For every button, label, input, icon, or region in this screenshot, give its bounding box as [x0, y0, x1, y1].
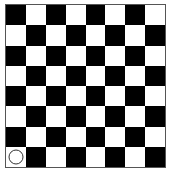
- board-square[interactable]: [105, 25, 125, 45]
- board-square[interactable]: [6, 127, 26, 147]
- board-square[interactable]: [46, 86, 66, 106]
- board-square[interactable]: [46, 147, 66, 167]
- board-square[interactable]: [145, 147, 165, 167]
- board-square[interactable]: [26, 86, 46, 106]
- board-square[interactable]: [66, 66, 86, 86]
- board-square[interactable]: [26, 5, 46, 25]
- board-square[interactable]: [26, 106, 46, 126]
- board-square[interactable]: [26, 25, 46, 45]
- board-square[interactable]: [145, 46, 165, 66]
- board-square[interactable]: [145, 86, 165, 106]
- board-square[interactable]: [86, 106, 106, 126]
- circle-piece-icon[interactable]: [8, 149, 23, 164]
- board-square[interactable]: [86, 66, 106, 86]
- board-square[interactable]: [6, 147, 26, 167]
- board-square[interactable]: [6, 46, 26, 66]
- board-square[interactable]: [86, 127, 106, 147]
- board-square[interactable]: [6, 86, 26, 106]
- board-square[interactable]: [125, 86, 145, 106]
- board-square[interactable]: [145, 106, 165, 126]
- board-square[interactable]: [66, 106, 86, 126]
- board-square[interactable]: [105, 66, 125, 86]
- board-square[interactable]: [105, 5, 125, 25]
- board-square[interactable]: [66, 46, 86, 66]
- board-square[interactable]: [26, 66, 46, 86]
- board-square[interactable]: [145, 66, 165, 86]
- board-square[interactable]: [46, 25, 66, 45]
- board-square[interactable]: [125, 25, 145, 45]
- board-square[interactable]: [46, 106, 66, 126]
- board-square[interactable]: [105, 86, 125, 106]
- board-square[interactable]: [105, 46, 125, 66]
- board-square[interactable]: [125, 127, 145, 147]
- board-square[interactable]: [46, 127, 66, 147]
- board-square[interactable]: [105, 106, 125, 126]
- board-square[interactable]: [6, 106, 26, 126]
- board-square[interactable]: [6, 5, 26, 25]
- board-square[interactable]: [26, 147, 46, 167]
- board-square[interactable]: [46, 5, 66, 25]
- board-square[interactable]: [125, 5, 145, 25]
- board-square[interactable]: [66, 5, 86, 25]
- board-square[interactable]: [125, 66, 145, 86]
- board-square[interactable]: [125, 106, 145, 126]
- board-square[interactable]: [86, 25, 106, 45]
- board-square[interactable]: [145, 5, 165, 25]
- board-square[interactable]: [26, 46, 46, 66]
- board-square[interactable]: [66, 127, 86, 147]
- game-board: [5, 4, 166, 168]
- board-square[interactable]: [86, 86, 106, 106]
- board-square[interactable]: [46, 46, 66, 66]
- board-square[interactable]: [145, 127, 165, 147]
- board-square[interactable]: [86, 147, 106, 167]
- board-square[interactable]: [105, 147, 125, 167]
- board-square[interactable]: [66, 147, 86, 167]
- board-square[interactable]: [125, 147, 145, 167]
- board-square[interactable]: [86, 46, 106, 66]
- board-square[interactable]: [26, 127, 46, 147]
- board-square[interactable]: [86, 5, 106, 25]
- board-square[interactable]: [125, 46, 145, 66]
- board-square[interactable]: [66, 86, 86, 106]
- board-square[interactable]: [46, 66, 66, 86]
- board-square[interactable]: [145, 25, 165, 45]
- board-square[interactable]: [66, 25, 86, 45]
- board-square[interactable]: [6, 25, 26, 45]
- board-square[interactable]: [105, 127, 125, 147]
- board-square[interactable]: [6, 66, 26, 86]
